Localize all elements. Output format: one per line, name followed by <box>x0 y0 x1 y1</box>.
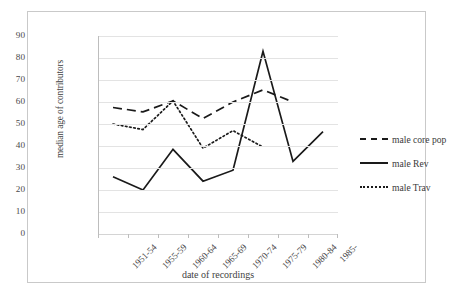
legend-label: male Rev <box>392 158 429 169</box>
x-tick-mark <box>128 234 129 238</box>
series-line <box>113 51 323 190</box>
x-tick-mark <box>248 234 249 238</box>
legend-item[interactable]: male Rev <box>360 151 451 175</box>
gridline <box>98 124 338 125</box>
x-tick-label: 1975-79 <box>280 242 309 271</box>
plot-area: 0102030405060708090 1951-541955-591960-6… <box>98 36 338 234</box>
x-tick-label: 1960-64 <box>190 242 219 271</box>
y-tick-label: 50 <box>0 119 25 128</box>
chart-legend: male core popmale Revmale Trav <box>360 127 451 199</box>
x-tick-mark <box>278 234 279 238</box>
x-tick-label: 1970-74 <box>250 242 279 271</box>
x-tick-mark <box>98 234 99 238</box>
x-tick-label: 1965-69 <box>220 242 249 271</box>
legend-swatch-dotted-icon <box>360 182 388 192</box>
gridline <box>98 58 338 59</box>
gridline <box>98 80 338 81</box>
y-axis-line <box>98 36 99 234</box>
y-tick-label: 20 <box>0 185 25 194</box>
legend-label: male core pop <box>392 134 446 145</box>
legend-swatch-dashed-icon <box>360 134 388 144</box>
y-tick-label: 10 <box>0 207 25 216</box>
gridline <box>98 146 338 147</box>
x-tick-label: 1951-54 <box>130 242 159 271</box>
x-tick-mark <box>337 234 338 238</box>
x-tick-mark <box>218 234 219 238</box>
x-tick-mark <box>308 234 309 238</box>
gridline <box>98 168 338 169</box>
y-tick-label: 90 <box>0 31 25 40</box>
y-tick-label: 40 <box>0 141 25 150</box>
legend-swatch-solid-icon <box>360 158 388 168</box>
x-tick-label: 1985- <box>337 242 359 264</box>
x-tick-label: 1955-59 <box>160 242 189 271</box>
chart-frame: median age of contributors 0102030405060… <box>27 11 426 283</box>
x-tick-mark <box>158 234 159 238</box>
series-line <box>113 90 293 119</box>
y-axis-title: median age of contributors <box>55 29 65 189</box>
y-tick-label: 80 <box>0 53 25 62</box>
gridline <box>98 190 338 191</box>
legend-label: male Trav <box>392 182 431 193</box>
y-tick-label: 60 <box>0 97 25 106</box>
legend-item[interactable]: male core pop <box>360 127 451 151</box>
y-tick-label: 0 <box>0 229 25 238</box>
series-lines <box>98 36 338 234</box>
gridline <box>98 36 338 37</box>
y-tick-label: 70 <box>0 75 25 84</box>
x-tick-mark <box>188 234 189 238</box>
legend-item[interactable]: male Trav <box>360 175 451 199</box>
figure-container: median age of contributors 0102030405060… <box>0 0 451 297</box>
gridline <box>98 102 338 103</box>
gridline <box>98 212 338 213</box>
y-tick-label: 30 <box>0 163 25 172</box>
x-tick-label: 1980-84 <box>310 242 339 271</box>
x-axis-title: date of recordings <box>98 269 338 280</box>
